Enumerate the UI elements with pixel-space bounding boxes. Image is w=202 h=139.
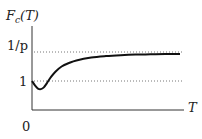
y-tick-label-1p: 1/p	[7, 38, 28, 53]
origin-label: 0	[22, 119, 30, 134]
y-tick-label-1: 1	[19, 74, 27, 89]
series-line	[32, 54, 180, 89]
y-axis-label: Fc(T)	[5, 8, 39, 25]
x-axis-label: T	[188, 100, 198, 115]
chart: Fc(T) 1/p 1 0 T	[0, 0, 202, 139]
